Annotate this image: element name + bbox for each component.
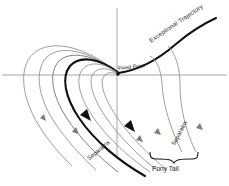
label-pony-tail: Pony Tail — [152, 166, 179, 173]
phase-portrait-figure: Exceptional Trajectory Fixed Point Separ… — [0, 0, 229, 186]
flow-arrow-4 — [154, 128, 161, 135]
fixed-point-dot — [116, 72, 119, 75]
flow-curve-inner-2 — [91, 69, 158, 171]
flow-arrow-5 — [196, 123, 203, 130]
flow-curve-inner-3 — [102, 73, 167, 170]
separatrix-arrow-2 — [124, 120, 135, 132]
phase-portrait-svg — [0, 0, 229, 186]
flow-curve-outer-2 — [39, 50, 118, 170]
separatrix-curve — [65, 59, 145, 176]
flow-arrow-2 — [72, 127, 79, 134]
flow-curve-right-tail-2 — [168, 46, 196, 152]
flow-arrow-3 — [136, 135, 143, 142]
flow-arrow-1 — [40, 114, 46, 121]
